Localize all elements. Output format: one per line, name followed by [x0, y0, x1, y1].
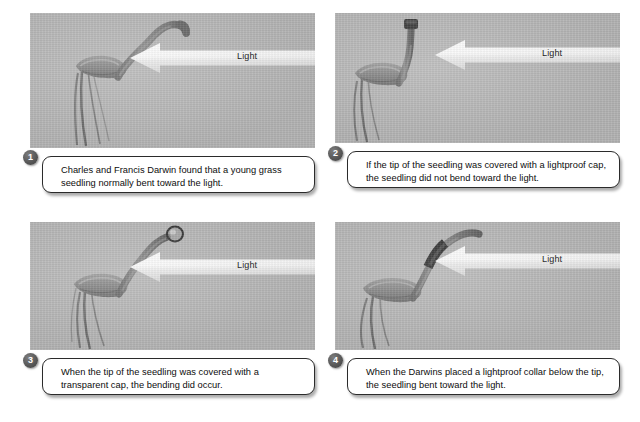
panel-3-badge: 3: [23, 353, 38, 368]
panel-2-photo: Light: [335, 13, 620, 143]
panel-3: Light 3 When the tip of the seedling was…: [30, 222, 315, 402]
panel-2-badge: 2: [328, 146, 343, 161]
light-arrow-4: [435, 244, 620, 278]
panel-1: Light 1 Charles and Francis Darwin found…: [30, 13, 315, 193]
panel-1-photo: Light: [30, 13, 315, 148]
panel-4-caption: When the Darwins placed a lightproof col…: [366, 366, 609, 392]
darwin-phototropism-figure: Light 1 Charles and Francis Darwin found…: [0, 0, 640, 422]
seedling-illustration-3: [30, 222, 315, 350]
light-label-1: Light: [237, 52, 257, 61]
panel-4-photo: Light: [335, 222, 620, 350]
panel-4-callout: When the Darwins placed a lightproof col…: [347, 358, 620, 395]
panel-3-caption: When the tip of the seedling was covered…: [61, 366, 304, 392]
light-arrow-2: [435, 38, 620, 72]
panel-4: Light 4 When the Darwins placed a lightp…: [335, 222, 620, 402]
panel-1-callout: Charles and Francis Darwin found that a …: [42, 156, 315, 193]
seedling-illustration-2: [335, 13, 620, 143]
panel-2-caption: If the tip of the seedling was covered w…: [366, 159, 609, 185]
light-arrow-1: [130, 41, 315, 75]
panel-4-badge: 4: [328, 353, 343, 368]
panel-3-callout: When the tip of the seedling was covered…: [42, 358, 315, 395]
seedling-illustration-4: [335, 222, 620, 350]
light-arrow-3: [130, 250, 315, 284]
light-label-2: Light: [542, 49, 562, 58]
panel-1-badge: 1: [23, 150, 38, 165]
light-label-3: Light: [237, 261, 257, 270]
panel-2-callout: If the tip of the seedling was covered w…: [347, 151, 620, 188]
panel-1-caption: Charles and Francis Darwin found that a …: [61, 164, 304, 190]
seedling-illustration-1: [30, 13, 315, 148]
light-label-4: Light: [542, 255, 562, 264]
panel-3-photo: Light: [30, 222, 315, 350]
panel-2: Light 2 If the tip of the seedling was c…: [335, 13, 620, 193]
